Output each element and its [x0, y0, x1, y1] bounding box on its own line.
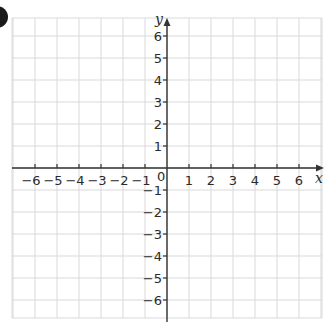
x-tick-label: 2 [207, 173, 215, 188]
y-tick-label: −5 [143, 271, 162, 286]
y-tick-label: 4 [154, 73, 162, 88]
y-tick-label: −6 [143, 293, 162, 308]
y-tick-label: −3 [143, 227, 162, 242]
x-tick-label: 6 [295, 173, 303, 188]
x-tick-label: −6 [21, 173, 40, 188]
x-tick-label: 1 [185, 173, 193, 188]
x-tick-label: −5 [43, 173, 62, 188]
x-tick-label: −3 [87, 173, 106, 188]
x-tick-label: −2 [109, 173, 128, 188]
y-axis-label: y [154, 11, 164, 27]
origin-label: 0 [157, 169, 165, 184]
x-tick-label: 3 [229, 173, 237, 188]
y-axis-arrow-icon [164, 18, 171, 26]
y-tick-label: 2 [154, 117, 162, 132]
x-axis-label: x [315, 170, 323, 186]
y-tick-label: 6 [154, 29, 162, 44]
x-tick-label: 4 [251, 173, 259, 188]
y-tick-label: 1 [154, 139, 162, 154]
y-tick-label: −4 [143, 249, 162, 264]
x-tick-label: 5 [273, 173, 281, 188]
y-tick-label: 3 [154, 95, 162, 110]
y-tick-label: −1 [143, 183, 162, 198]
y-tick-label: −2 [143, 205, 162, 220]
coordinate-grid: −6−5−4−3−2−1123456 654321−1−2−3−4−5−6 0 … [0, 0, 330, 324]
x-tick-label: −4 [65, 173, 84, 188]
y-tick-label: 5 [154, 51, 162, 66]
